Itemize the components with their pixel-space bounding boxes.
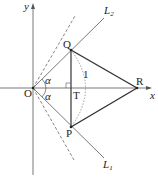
- label-y-axis: y: [23, 0, 29, 12]
- label-T: T: [73, 89, 80, 101]
- y-axis-arrow-icon: [31, 3, 35, 9]
- label-radius: 1: [83, 68, 89, 80]
- label-x-axis: x: [149, 89, 155, 101]
- segment-PR: [71, 88, 137, 127]
- label-alpha-top: α: [45, 74, 51, 86]
- label-R: R: [136, 75, 144, 87]
- line-L1: [33, 88, 104, 158]
- point-O: [32, 87, 35, 90]
- segment-QR: [71, 50, 137, 88]
- label-L1: L1: [102, 158, 113, 172]
- line-L2: [33, 18, 104, 88]
- label-Q: Q: [63, 38, 71, 50]
- dashed-line-lower: [33, 88, 74, 160]
- point-R: [136, 87, 139, 90]
- geometry-diagram: y x O Q P R T 1 α α L2 L1: [0, 0, 158, 177]
- label-alpha-bottom: α: [45, 90, 51, 102]
- diagram-canvas: y x O Q P R T 1 α α L2 L1: [0, 0, 158, 177]
- right-angle-mark: [66, 83, 71, 88]
- label-origin: O: [24, 87, 32, 99]
- label-L2: L2: [103, 4, 114, 18]
- label-P: P: [66, 127, 72, 139]
- dashed-line-upper: [33, 16, 75, 88]
